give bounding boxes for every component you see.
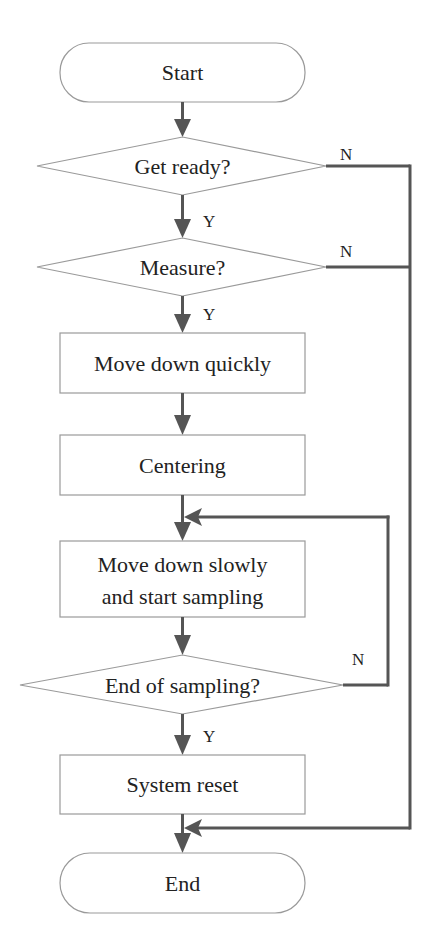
system-reset-node: System reset	[60, 755, 305, 814]
measure-decision: Measure?	[37, 238, 326, 296]
connector-start-to-get-ready	[174, 102, 191, 137]
end-of-sampling-label: End of sampling?	[105, 673, 260, 698]
arrowhead-icon	[174, 119, 191, 137]
move-down-quickly-node: Move down quickly	[60, 333, 305, 393]
get-ready-no-label: N	[340, 145, 352, 164]
arrowhead-icon	[174, 522, 191, 541]
connector-measure-yes: Y	[174, 296, 215, 333]
move-down-slowly-node: Move down slowly and start sampling	[60, 541, 305, 617]
arrowhead-icon	[174, 635, 191, 655]
get-ready-label: Get ready?	[135, 154, 231, 179]
arrowhead-icon	[174, 735, 191, 755]
move-down-quickly-label: Move down quickly	[94, 351, 271, 376]
arrowhead-icon	[174, 219, 191, 238]
start-label: Start	[162, 60, 204, 85]
end-of-sampling-yes-label: Y	[203, 727, 215, 746]
arrowhead-icon	[174, 833, 191, 853]
connector-get-ready-yes: Y	[174, 195, 215, 238]
get-ready-yes-label: Y	[203, 212, 215, 231]
measure-no-label: N	[340, 242, 352, 261]
end-of-sampling-no-label: N	[352, 650, 364, 669]
connector-get-ready-no: N	[326, 145, 410, 166]
centering-label: Centering	[139, 453, 226, 478]
measure-label: Measure?	[140, 255, 226, 280]
connector-reset-to-end	[174, 814, 191, 853]
end-node: End	[60, 853, 305, 913]
connector-slowly-to-end-of-sampling	[174, 617, 191, 655]
end-label: End	[165, 871, 200, 896]
move-down-slowly-label-line2: and start sampling	[102, 584, 263, 609]
get-ready-decision: Get ready?	[37, 137, 326, 195]
connector-end-of-sampling-yes: Y	[174, 714, 215, 755]
end-of-sampling-decision: End of sampling?	[20, 655, 343, 714]
system-reset-label: System reset	[127, 772, 239, 797]
centering-node: Centering	[60, 435, 305, 495]
move-down-slowly-label-line1: Move down slowly	[98, 552, 268, 577]
flowchart: Start Get ready? Y N Measure? N	[0, 0, 437, 943]
arrowhead-icon	[174, 415, 191, 435]
connector-measure-no: N	[326, 242, 410, 267]
connector-quickly-to-centering	[174, 393, 191, 435]
measure-yes-label: Y	[203, 305, 215, 324]
start-node: Start	[60, 43, 305, 102]
arrowhead-icon	[174, 314, 191, 333]
